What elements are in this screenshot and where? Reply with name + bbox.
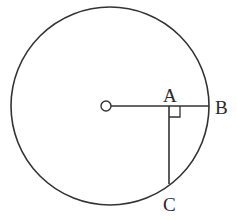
label-b: B xyxy=(215,97,228,118)
label-c: C xyxy=(163,194,176,215)
label-a: A xyxy=(163,85,177,106)
center-point-marker xyxy=(101,101,111,111)
right-angle-marker xyxy=(169,106,180,117)
circle-diagram: A B C xyxy=(0,0,237,220)
